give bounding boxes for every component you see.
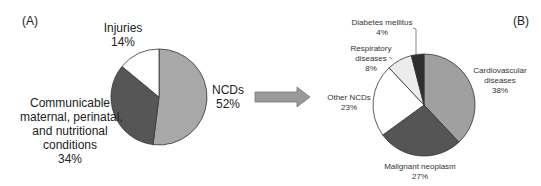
figure: (A) (B) Injuries14% NCDs52% Communicable… bbox=[0, 0, 541, 186]
label-communicable: Communicable maternal, perinatal, and nu… bbox=[20, 96, 120, 166]
pie-chart-a bbox=[111, 49, 207, 145]
label-malignant: Malignant neoplasm27% bbox=[380, 162, 460, 182]
panel-label-b: (B) bbox=[513, 14, 529, 28]
pie-slice bbox=[153, 49, 207, 145]
label-injuries: Injuries14% bbox=[103, 21, 143, 49]
panel-label-a: (A) bbox=[22, 14, 38, 28]
label-respiratory: Respiratorydiseases8% bbox=[350, 44, 392, 74]
label-cardio: Cardiovasculardiseases38% bbox=[470, 66, 530, 96]
label-ncds: NCDs52% bbox=[208, 83, 248, 111]
label-other-ncds: Other NCDs23% bbox=[326, 93, 372, 113]
label-diabetes: Diabetes mellitus4% bbox=[348, 18, 416, 38]
arrow-icon bbox=[255, 87, 310, 107]
